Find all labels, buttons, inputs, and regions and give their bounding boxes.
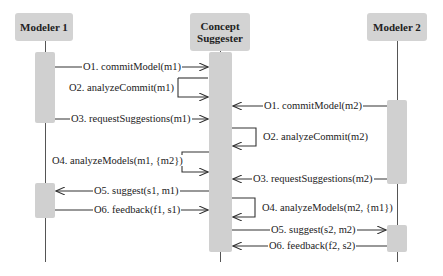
message-label: O5. suggest(s1, m1) [93, 185, 180, 196]
message-label: O2. analyzeCommit(m2) [262, 131, 369, 142]
message-label: O4. analyzeModels(m2, {m1}) [261, 202, 394, 213]
sequence-diagram: Modeler 1 Concept Suggester Modeler 2 [0, 0, 443, 276]
message-label: O6. feedback(f1, s1) [93, 204, 181, 215]
message-arrows [0, 0, 443, 276]
message-label: O2. analyzeCommit(m1) [68, 82, 175, 93]
message-label: O3. requestSuggestions(m1) [70, 113, 192, 124]
message-label: O5. suggest(s2, m2) [270, 224, 357, 235]
message-label: O1. commitModel(m2) [263, 100, 363, 111]
message-label: O4. analyzeModels(m1, {m2}) [51, 155, 184, 166]
message-label: O3. requestSuggestions(m2) [252, 173, 374, 184]
message-label: O1. commitModel(m1) [82, 61, 182, 72]
message-label: O6. feedback(f2, s2) [268, 240, 356, 251]
